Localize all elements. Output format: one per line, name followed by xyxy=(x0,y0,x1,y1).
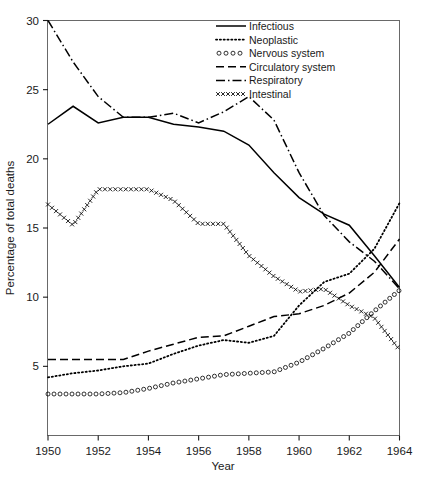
marker-circle xyxy=(218,373,222,377)
marker-cross xyxy=(303,289,307,293)
legend-marker-cross xyxy=(241,92,245,96)
marker-circle xyxy=(88,392,92,396)
marker-circle xyxy=(360,320,364,324)
marker-cross xyxy=(228,230,232,234)
marker-cross xyxy=(196,221,200,225)
marker-circle xyxy=(392,293,396,297)
marker-circle xyxy=(388,296,392,300)
marker-circle xyxy=(254,371,258,375)
line-chart: 51015202530 1950195219541956195819601962… xyxy=(0,0,423,483)
marker-circle xyxy=(183,379,187,383)
legend-marker-cross xyxy=(216,92,220,96)
chart-legend: InfectiousNeoplasticNervous systemCircul… xyxy=(216,20,336,100)
marker-circle xyxy=(165,382,169,386)
marker-circle xyxy=(153,385,157,389)
marker-circle xyxy=(383,300,387,304)
marker-cross xyxy=(309,288,313,292)
marker-cross xyxy=(263,267,267,271)
marker-cross xyxy=(383,329,387,333)
marker-cross xyxy=(341,299,345,303)
legend-marker-cross xyxy=(226,92,230,96)
legend-label: Intestinal xyxy=(249,88,291,100)
data-series-group xyxy=(46,21,401,397)
marker-cross xyxy=(211,222,215,226)
legend-entry: Intestinal xyxy=(216,88,291,100)
marker-cross xyxy=(267,271,271,275)
marker-cross xyxy=(280,279,284,283)
marker-cross xyxy=(255,261,259,265)
marker-cross xyxy=(54,209,58,213)
marker-cross xyxy=(82,207,86,211)
marker-cross xyxy=(328,291,332,295)
legend-entry: Nervous system xyxy=(217,47,325,59)
marker-circle xyxy=(195,377,199,381)
marker-circle xyxy=(248,371,252,375)
marker-cross xyxy=(332,294,336,298)
y-tick-label: 15 xyxy=(26,222,39,234)
marker-circle xyxy=(311,353,315,357)
marker-cross xyxy=(108,187,112,191)
marker-cross xyxy=(244,250,248,254)
legend-entry: Neoplastic xyxy=(216,34,298,46)
marker-cross xyxy=(129,187,133,191)
marker-cross xyxy=(369,314,373,318)
x-tick-label: 1952 xyxy=(85,445,111,457)
marker-circle xyxy=(142,387,146,391)
marker-circle xyxy=(242,372,246,376)
marker-cross xyxy=(50,206,54,210)
marker-circle xyxy=(278,368,282,372)
marker-cross xyxy=(88,199,92,203)
marker-circle xyxy=(207,375,211,379)
marker-circle xyxy=(94,392,98,396)
legend-label: Circulatory system xyxy=(249,61,336,73)
marker-circle xyxy=(260,371,264,375)
marker-circle xyxy=(58,392,62,396)
marker-cross xyxy=(259,264,263,268)
marker-cross xyxy=(169,197,173,201)
series-infectious xyxy=(48,106,400,287)
marker-cross xyxy=(66,219,70,223)
marker-cross xyxy=(103,187,107,191)
x-tick-label: 1964 xyxy=(387,445,413,457)
marker-cross xyxy=(337,297,341,301)
marker-cross xyxy=(98,187,102,191)
marker-cross xyxy=(376,321,380,325)
marker-circle xyxy=(326,344,330,348)
marker-cross xyxy=(206,222,210,226)
marker-cross xyxy=(70,222,74,226)
series-neoplastic xyxy=(48,203,400,377)
y-tick-label: 25 xyxy=(26,84,39,96)
marker-cross xyxy=(46,202,50,206)
x-tick-label: 1956 xyxy=(186,445,212,457)
marker-cross xyxy=(124,187,128,191)
marker-cross xyxy=(192,217,196,221)
legend-marker-cross xyxy=(236,92,240,96)
marker-circle xyxy=(70,392,74,396)
marker-circle xyxy=(295,361,299,365)
marker-cross xyxy=(201,222,205,226)
series-line xyxy=(48,239,400,359)
y-tick-label: 10 xyxy=(26,291,39,303)
marker-circle xyxy=(397,289,401,293)
marker-circle xyxy=(130,389,134,393)
marker-cross xyxy=(234,238,238,242)
marker-circle xyxy=(212,374,216,378)
marker-cross xyxy=(159,193,163,197)
marker-circle xyxy=(266,370,270,374)
y-tick-label: 5 xyxy=(33,360,39,372)
marker-circle xyxy=(230,372,234,376)
y-axis-title: Percentage of total deaths xyxy=(4,161,16,296)
marker-cross xyxy=(73,220,77,224)
marker-cross xyxy=(247,254,251,258)
marker-circle xyxy=(201,376,205,380)
marker-cross xyxy=(134,187,138,191)
series-circulatory-system xyxy=(48,239,400,359)
marker-circle xyxy=(342,335,346,339)
marker-cross xyxy=(285,282,289,286)
series-respiratory xyxy=(48,21,400,289)
legend-entry: Respiratory xyxy=(216,74,303,86)
x-tick-label: 1960 xyxy=(286,445,312,457)
legend-marker-cross xyxy=(231,92,235,96)
legend-entry: Circulatory system xyxy=(216,61,336,73)
marker-circle xyxy=(52,392,56,396)
